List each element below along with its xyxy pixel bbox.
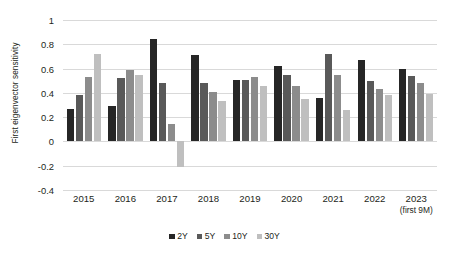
bar-10Y-2016[interactable] [126, 70, 133, 142]
y-axis-tick-labels: 10.80.60.40.20-0.2-0.4 [0, 20, 58, 190]
bar-5Y-2017[interactable] [159, 83, 166, 141]
legend-label: 30Y [265, 232, 280, 241]
chart-legend: 2Y5Y10Y30Y [0, 232, 449, 241]
bars [146, 20, 188, 190]
y-tick-label: 0.8 [41, 39, 54, 50]
bar-5Y-2016[interactable] [117, 78, 124, 141]
x-tick-label: 2019 [229, 193, 271, 227]
bar-30Y-2018[interactable] [218, 101, 225, 141]
bar-2Y-2015[interactable] [67, 109, 74, 142]
y-tick-label: 0.6 [41, 63, 54, 74]
bar-30Y-2017[interactable] [177, 141, 184, 167]
legend-swatch-icon [169, 234, 175, 240]
bar-30Y-2019[interactable] [260, 86, 267, 142]
x-tick-label: 2023(first 9M) [396, 193, 438, 227]
bar-30Y-2016[interactable] [135, 75, 142, 142]
bar-group [312, 20, 354, 190]
bar-5Y-2023[interactable] [408, 76, 415, 142]
bar-5Y-2021[interactable] [325, 54, 332, 141]
bar-10Y-2021[interactable] [334, 75, 341, 142]
gridline-neg0p4 [63, 190, 437, 191]
y-tick-label: 0 [49, 136, 54, 147]
bar-group [63, 20, 105, 190]
bars [63, 20, 105, 190]
bars [105, 20, 147, 190]
y-tick-label: 0.4 [41, 87, 54, 98]
bar-10Y-2019[interactable] [251, 77, 258, 141]
bar-30Y-2021[interactable] [343, 110, 350, 142]
y-tick-label: 0.2 [41, 112, 54, 123]
bar-2Y-2018[interactable] [191, 55, 198, 141]
bars [396, 20, 438, 190]
bar-group [188, 20, 230, 190]
plot-area [63, 20, 437, 190]
bar-10Y-2020[interactable] [292, 86, 299, 142]
bar-5Y-2020[interactable] [283, 75, 290, 142]
legend-swatch-icon [257, 234, 263, 240]
legend-item-30Y[interactable]: 30Y [257, 232, 280, 241]
bar-2Y-2023[interactable] [399, 69, 406, 142]
bar-group [271, 20, 313, 190]
bar-5Y-2015[interactable] [76, 95, 83, 141]
x-tick-label: 2018 [188, 193, 230, 227]
y-tick-label: -0.4 [38, 185, 54, 196]
bar-30Y-2020[interactable] [301, 99, 308, 142]
bar-chart: First eigenvector sensitivity 10.80.60.4… [0, 0, 449, 254]
bar-30Y-2023[interactable] [426, 94, 433, 141]
x-axis-tick-labels: 201520162017201820192020202120222023(fir… [63, 193, 437, 227]
bar-group [354, 20, 396, 190]
legend-item-10Y[interactable]: 10Y [224, 232, 247, 241]
bar-5Y-2019[interactable] [242, 80, 249, 142]
bar-group [146, 20, 188, 190]
bar-groups [63, 20, 437, 190]
y-tick-label: 1 [49, 15, 54, 26]
bar-30Y-2022[interactable] [385, 95, 392, 141]
legend-item-5Y[interactable]: 5Y [197, 232, 216, 241]
x-tick-label: 2022 [354, 193, 396, 227]
bars [229, 20, 271, 190]
bar-2Y-2016[interactable] [108, 106, 115, 141]
bars [271, 20, 313, 190]
x-tick-sublabel: (first 9M) [396, 205, 438, 216]
bar-2Y-2022[interactable] [358, 60, 365, 141]
bar-group [396, 20, 438, 190]
legend-swatch-icon [197, 234, 203, 240]
legend-label: 10Y [232, 232, 247, 241]
bar-group [229, 20, 271, 190]
bar-2Y-2017[interactable] [150, 39, 157, 141]
x-tick-label: 2021 [312, 193, 354, 227]
bar-10Y-2018[interactable] [209, 92, 216, 142]
bar-5Y-2018[interactable] [200, 83, 207, 141]
bars [312, 20, 354, 190]
bar-5Y-2022[interactable] [367, 81, 374, 142]
bar-30Y-2015[interactable] [94, 54, 101, 141]
bar-2Y-2019[interactable] [233, 80, 240, 142]
y-tick-label: -0.2 [38, 160, 54, 171]
bars [188, 20, 230, 190]
x-tick-label: 2015 [63, 193, 105, 227]
bar-2Y-2020[interactable] [274, 66, 281, 141]
legend-swatch-icon [224, 234, 230, 240]
legend-label: 2Y [177, 232, 188, 241]
bar-2Y-2021[interactable] [316, 98, 323, 142]
bar-10Y-2015[interactable] [85, 77, 92, 141]
legend-item-2Y[interactable]: 2Y [169, 232, 188, 241]
legend-label: 5Y [205, 232, 216, 241]
bar-10Y-2023[interactable] [417, 83, 424, 141]
x-tick-label: 2017 [146, 193, 188, 227]
bar-10Y-2017[interactable] [168, 124, 175, 141]
bar-group [105, 20, 147, 190]
bars [354, 20, 396, 190]
x-tick-label: 2020 [271, 193, 313, 227]
bar-10Y-2022[interactable] [376, 89, 383, 141]
x-tick-label: 2016 [105, 193, 147, 227]
